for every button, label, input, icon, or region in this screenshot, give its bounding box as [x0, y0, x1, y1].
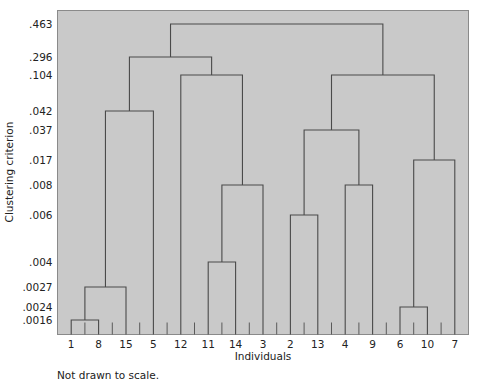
x-axis-tick-label: 2	[287, 338, 294, 350]
figure-note: Not drawn to scale.	[57, 369, 159, 381]
y-axis-tick-label: .0016	[22, 314, 52, 326]
x-axis-tick-label: 4	[342, 338, 349, 350]
x-axis-tick-label: 15	[119, 338, 132, 350]
y-axis-tick-label: .042	[29, 105, 52, 117]
y-axis-tick-label: .463	[29, 18, 52, 30]
y-axis-tick-label: .0024	[22, 301, 52, 313]
x-axis-tick-label: 9	[369, 338, 376, 350]
y-axis-title: Clustering criterion	[3, 122, 15, 223]
x-axis-tick-label: 6	[397, 338, 404, 350]
x-axis-tick-label: 5	[150, 338, 157, 350]
y-axis-tick-labels: .463.296.104.042.037.017.008.006.004.002…	[22, 18, 52, 326]
x-axis-tick-label: 1	[68, 338, 75, 350]
x-axis-tick-label: 13	[311, 338, 324, 350]
y-axis-tick-label: .008	[29, 179, 52, 191]
x-axis-tick-label: 8	[95, 338, 102, 350]
y-axis-tick-label: .004	[29, 256, 53, 268]
y-axis-tick-label: .037	[29, 124, 52, 136]
x-axis-tick-label: 12	[174, 338, 187, 350]
x-axis-tick-label: 7	[451, 338, 458, 350]
dendrogram-figure: .463.296.104.042.037.017.008.006.004.002…	[0, 0, 484, 387]
x-axis-tick-label: 14	[229, 338, 243, 350]
x-axis-tick-label: 11	[202, 338, 215, 350]
x-axis-tick-label: 3	[260, 338, 267, 350]
y-axis-tick-label: .0027	[22, 281, 52, 293]
dendrogram-svg: .463.296.104.042.037.017.008.006.004.002…	[0, 0, 484, 387]
y-axis-tick-label: .296	[29, 51, 53, 63]
x-axis-tick-label: 10	[421, 338, 434, 350]
y-axis-tick-label: .006	[29, 209, 53, 221]
x-axis-title: Individuals	[235, 350, 292, 362]
y-axis-tick-label: .104	[29, 69, 53, 81]
y-axis-tick-label: .017	[29, 154, 52, 166]
